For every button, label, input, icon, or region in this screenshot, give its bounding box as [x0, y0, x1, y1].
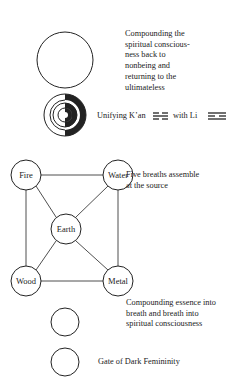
label-metal: Metal [108, 276, 128, 286]
caption-line: ness back to [125, 50, 190, 61]
ultimateless-circle [37, 32, 93, 88]
caption-line: Compounding the [125, 29, 190, 40]
kan-li-symbol [44, 94, 86, 136]
caption-line: returning to the [125, 72, 190, 83]
gate-circle [51, 348, 79, 376]
caption-kan-li-prefix: Unifying K’an [97, 111, 146, 122]
caption-line: breath and breath into [126, 309, 216, 320]
caption-line: spiritual consciousness [126, 319, 216, 330]
label-fire: Fire [19, 170, 33, 180]
label-earth: Earth [57, 224, 76, 234]
caption-gate: Gate of Dark Femininity [98, 357, 180, 368]
caption-five-breaths: Five breaths assemble at the source [126, 170, 199, 191]
kan-trigram-icon [153, 113, 168, 119]
caption-kan-li-middle: with Li [173, 111, 197, 122]
caption-line: Five breaths assemble [126, 170, 199, 181]
caption-line: at the source [126, 181, 199, 192]
essence-circle [51, 308, 79, 336]
caption-line: ultimateless [125, 83, 190, 94]
caption-line: spiritual conscious- [125, 40, 190, 51]
li-trigram-icon [208, 113, 226, 119]
label-wood: Wood [16, 276, 37, 286]
caption-line: Compounding essence into [126, 298, 216, 309]
caption-essence: Compounding essence into breath and brea… [126, 298, 216, 330]
caption-line: nonbeing and [125, 61, 190, 72]
caption-ultimateless: Compounding the spiritual conscious- nes… [125, 29, 190, 93]
